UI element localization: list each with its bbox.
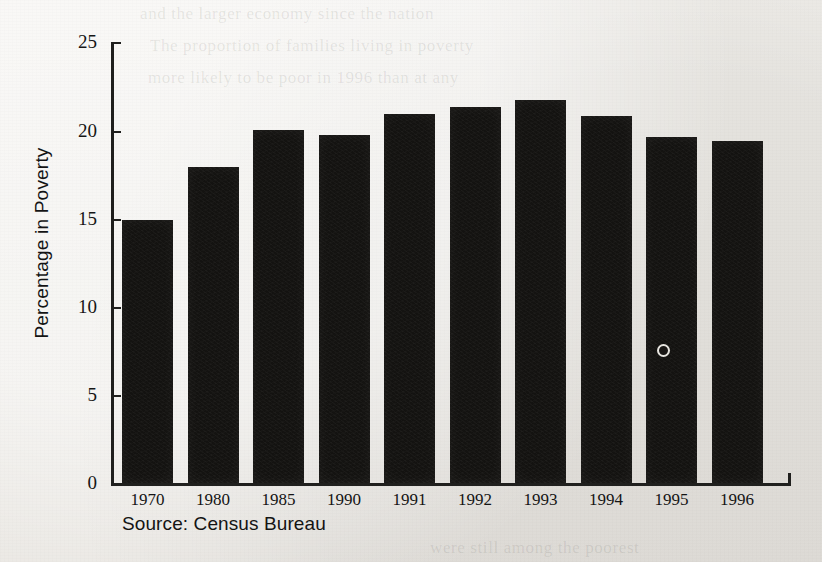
x-tick-label-1995: 1995 — [638, 490, 705, 510]
y-tick-label-5: 5 — [57, 384, 97, 406]
y-tick-label-10: 10 — [57, 296, 97, 318]
bar-1991 — [384, 114, 435, 483]
bar-1980 — [188, 167, 239, 483]
y-tick-25 — [111, 42, 121, 44]
y-axis-title: Percentage in Poverty — [31, 123, 53, 363]
bar-1992 — [450, 107, 501, 483]
bar-1995 — [646, 137, 697, 483]
source-note: Source: Census Bureau — [122, 513, 326, 535]
x-tick-label-1991: 1991 — [376, 490, 443, 510]
bar-1985 — [253, 130, 304, 483]
y-tick-label-25: 25 — [57, 31, 97, 53]
poverty-bar-chart: 25 20 15 10 5 0 Percentage in Poverty 19… — [0, 0, 822, 562]
y-tick-10 — [111, 307, 121, 309]
x-axis-end-tick — [788, 473, 791, 485]
bar-1970 — [122, 220, 173, 483]
bar-1990 — [319, 135, 370, 483]
y-tick-5 — [111, 395, 121, 397]
bar-1994 — [581, 116, 632, 483]
x-tick-label-1980: 1980 — [180, 490, 247, 510]
y-tick-20 — [111, 131, 121, 133]
x-tick-label-1996: 1996 — [704, 490, 771, 510]
y-axis-line — [111, 42, 114, 485]
x-tick-label-1992: 1992 — [442, 490, 509, 510]
x-axis-line — [111, 483, 791, 486]
x-tick-label-1985: 1985 — [245, 490, 312, 510]
y-tick-label-20: 20 — [57, 120, 97, 142]
bar-1993 — [515, 100, 566, 483]
x-tick-label-1994: 1994 — [573, 490, 640, 510]
y-tick-15 — [111, 219, 121, 221]
x-tick-label-1993: 1993 — [507, 490, 574, 510]
x-tick-label-1970: 1970 — [114, 490, 181, 510]
bar-1996 — [712, 141, 763, 483]
x-tick-label-1990: 1990 — [311, 490, 378, 510]
y-tick-label-0: 0 — [57, 472, 97, 494]
y-tick-label-15: 15 — [57, 208, 97, 230]
